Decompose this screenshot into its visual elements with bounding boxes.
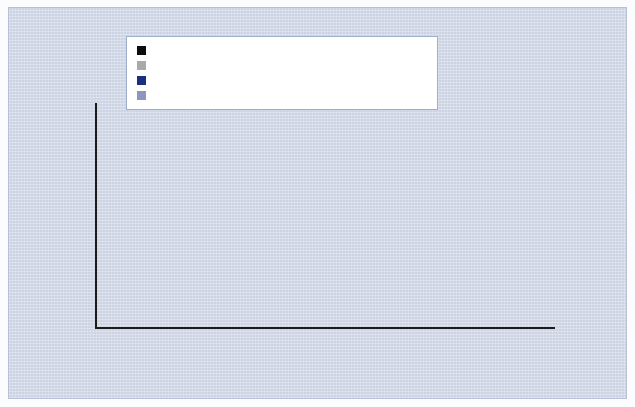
legend-item [135,88,429,102]
legend-swatch-2-to-10mbs [137,61,146,70]
legend-swatch-512kbs-to-2mbs [137,76,146,85]
x-axis-line [95,327,555,329]
chart-figure [0,0,635,407]
legend-item [135,43,429,57]
legend-item [135,73,429,87]
y-axis-ticks [50,0,90,407]
plot-svg [97,105,552,327]
legend-item [135,58,429,72]
stacked-area-plot [97,105,552,327]
y-axis-line [95,103,97,329]
legend-swatch-256-to-512kbs [137,91,146,100]
chart-legend [126,36,438,110]
legend-swatch-over-10mbs [137,46,146,55]
